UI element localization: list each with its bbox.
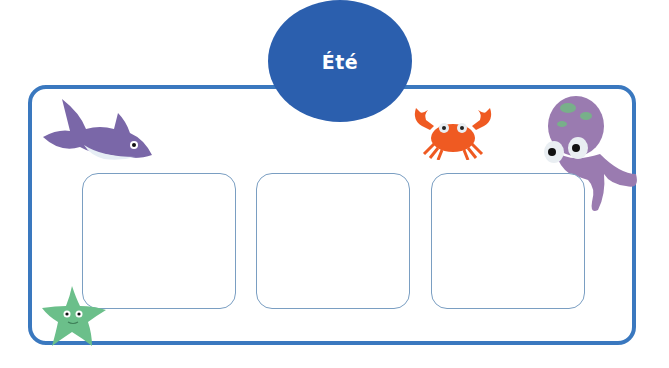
- answer-box-2[interactable]: [256, 173, 410, 309]
- shark-icon: [40, 95, 155, 167]
- crab-icon: [410, 104, 496, 160]
- page-title: Été: [322, 51, 358, 73]
- answer-box-3[interactable]: [431, 173, 585, 309]
- starfish-icon: [42, 284, 108, 348]
- title-circle: Été: [268, 0, 412, 122]
